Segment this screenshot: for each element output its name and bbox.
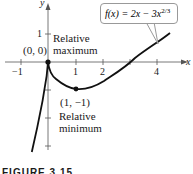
y-axis-label: y bbox=[40, 0, 44, 9]
function-graph bbox=[0, 0, 193, 174]
function-callout: f(x) = 2x − 3x2/3 bbox=[100, 3, 178, 24]
origin-point-label: (0, 0) bbox=[23, 44, 47, 56]
function-text: f(x) = 2x − 3x bbox=[105, 8, 161, 19]
y-tick-label-1: 1 bbox=[37, 28, 42, 40]
minimum-point-label: (1, −1) bbox=[60, 96, 90, 108]
relative-maximum-label-line2: maximum bbox=[53, 44, 98, 56]
function-label: f(x) = 2x − 3x2/3 bbox=[105, 7, 170, 19]
y-axis-arrow-icon bbox=[46, 3, 51, 10]
callout-pointer bbox=[146, 22, 158, 44]
relative-maximum-label-line1: Relative bbox=[53, 32, 90, 44]
relative-minimum-point bbox=[74, 87, 79, 92]
relative-maximum-point bbox=[45, 59, 50, 64]
relative-minimum-label-line1: Relative bbox=[59, 110, 96, 122]
relative-minimum-label-line2: minimum bbox=[59, 122, 102, 134]
figure-caption: FIGURE 3.15 bbox=[2, 167, 73, 174]
function-exponent: 2/3 bbox=[161, 7, 170, 15]
x-axis-label: x bbox=[186, 56, 190, 68]
x-tick-label-4: 4 bbox=[154, 66, 159, 78]
x-tick-label-2: 2 bbox=[100, 66, 105, 78]
x-tick-label-neg1: −1 bbox=[12, 66, 23, 78]
x-tick-label-1: 1 bbox=[73, 66, 78, 78]
